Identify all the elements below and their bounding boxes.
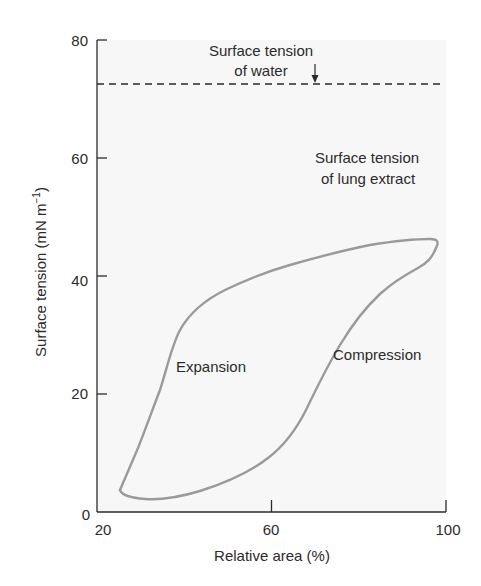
- x-tick-label-20: 20: [95, 521, 112, 538]
- water-annotation-line1: Surface tension: [209, 42, 313, 59]
- y-axis-title-close: ): [32, 187, 49, 192]
- x-axis-title: Relative area (%): [214, 547, 330, 564]
- y-tick-label-60: 60: [71, 150, 88, 167]
- y-tick-label-20: 20: [71, 385, 88, 402]
- surface-tension-chart: 80 60 40 20 0 20 60 100 Relative area (%…: [0, 0, 481, 586]
- expansion-label: Expansion: [176, 358, 246, 375]
- y-axis-title-main: Surface tension (mN m: [32, 204, 49, 357]
- water-annotation-line2: of water: [234, 62, 287, 79]
- compression-label: Compression: [333, 346, 421, 363]
- y-axis-title: Surface tension (mN m−1): [31, 187, 49, 357]
- y-axis-title-superscript: −1: [31, 192, 42, 204]
- lung-annotation-line1: Surface tension: [315, 149, 419, 166]
- plot-area: [97, 40, 446, 512]
- y-tick-label-80: 80: [71, 32, 88, 49]
- lung-annotation-line2: of lung extract: [321, 170, 416, 187]
- y-tick-label-0: 0: [82, 506, 90, 523]
- y-tick-label-40: 40: [71, 272, 88, 289]
- x-tick-label-60: 60: [263, 521, 280, 538]
- x-tick-label-100: 100: [435, 521, 460, 538]
